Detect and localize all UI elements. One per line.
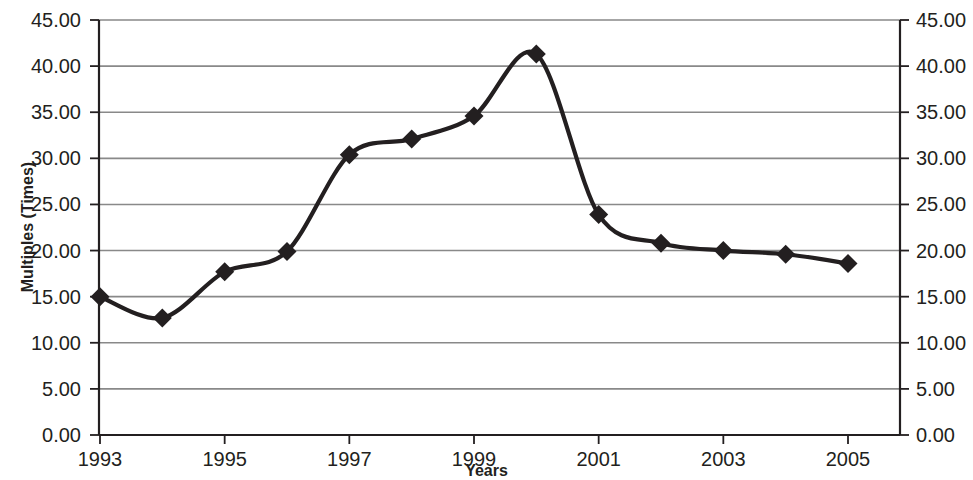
y-axis-left-tick-label: 25.00 (0, 194, 81, 214)
y-axis-right-tick-label: 10.00 (916, 333, 966, 353)
data-point-marker (714, 241, 733, 260)
data-point-marker (153, 308, 172, 327)
y-axis-right-tick-label: 25.00 (916, 194, 966, 214)
data-point-marker (91, 287, 110, 306)
data-point-marker (839, 254, 858, 273)
y-axis-right-tick-label: 15.00 (916, 287, 966, 307)
x-axis-title: Years (0, 462, 973, 480)
y-axis-right-tick-label: 40.00 (916, 56, 966, 76)
y-axis-left-tick-label: 40.00 (0, 56, 81, 76)
y-axis-left-tick-label: 35.00 (0, 102, 81, 122)
y-axis-right-tick-label: 35.00 (916, 102, 966, 122)
data-point-marker (776, 245, 795, 264)
data-line (100, 52, 848, 319)
y-axis-right-tick-label: 45.00 (916, 10, 966, 30)
y-axis-left-tick-label: 20.00 (0, 241, 81, 261)
y-axis-left-tick-label: 5.00 (0, 379, 81, 399)
y-axis-right-tick-label: 30.00 (916, 148, 966, 168)
y-axis-right-tick-label: 5.00 (916, 379, 955, 399)
y-axis-left-tick-label: 45.00 (0, 10, 81, 30)
y-axis-left-tick-label: 10.00 (0, 333, 81, 353)
line-chart: Multiples (Times) 0.005.0010.0015.0020.0… (0, 0, 973, 480)
y-axis-right-tick-label: 0.00 (916, 425, 955, 445)
plot-area (0, 0, 973, 480)
y-axis-left-tick-label: 15.00 (0, 287, 81, 307)
y-axis-left-tick-label: 0.00 (0, 425, 81, 445)
y-axis-left-tick-label: 30.00 (0, 148, 81, 168)
y-axis-right-tick-label: 20.00 (916, 241, 966, 261)
data-point-marker (402, 129, 421, 148)
